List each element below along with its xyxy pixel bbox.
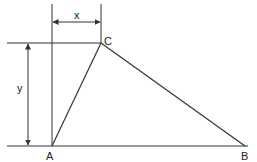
- edge-ac: [52, 43, 101, 146]
- dimension-label-x: x: [74, 9, 80, 21]
- vertex-label-c: C: [104, 35, 112, 47]
- dimension-label-y: y: [17, 82, 23, 94]
- vertex-label-a: A: [46, 150, 54, 162]
- edge-cb: [101, 43, 245, 146]
- vertex-label-b: B: [241, 150, 248, 162]
- triangle-diagram: x y C A B: [0, 0, 257, 162]
